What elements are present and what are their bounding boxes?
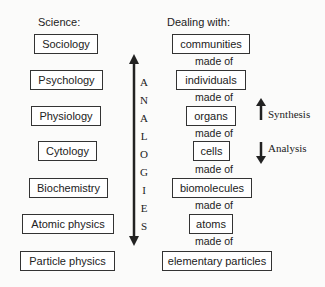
science-box-sociology: Sociology (34, 34, 98, 54)
science-box-psychology: Psychology (30, 70, 103, 90)
synthesis-label: Synthesis (268, 108, 310, 120)
analogies-letter: I (139, 184, 149, 196)
made-of-label: made of (154, 199, 274, 211)
made-of-label: made of (154, 55, 274, 67)
analogies-letter: A (139, 76, 149, 88)
analogies-letter: E (139, 202, 149, 214)
science-header: Science: (38, 16, 80, 28)
science-box-particle-physics: Particle physics (20, 251, 115, 271)
arrow-up-icon (256, 98, 266, 120)
analogies-letter: L (139, 130, 149, 142)
analogies-letter: G (139, 166, 149, 178)
level-box-biomolecules: biomolecules (172, 178, 252, 198)
level-box-cells: cells (193, 141, 230, 161)
made-of-label: made of (154, 235, 274, 247)
analogies-letter: A (139, 112, 149, 124)
science-box-cytology: Cytology (38, 141, 97, 161)
science-box-physiology: Physiology (31, 106, 101, 126)
dealing-header: Dealing with: (167, 16, 230, 28)
level-box-communities: communities (172, 34, 250, 54)
level-box-atoms: atoms (189, 214, 233, 234)
level-box-individuals: individuals (176, 70, 246, 90)
made-of-label: made of (154, 127, 274, 139)
analogies-letter: O (139, 148, 149, 160)
analogies-letter: N (139, 94, 149, 106)
science-box-biochemistry: Biochemistry (29, 178, 108, 198)
analogies-letter: S (139, 220, 149, 232)
arrow-down-icon (256, 142, 266, 164)
level-box-elementary-particles: elementary particles (162, 251, 272, 271)
level-box-organs: organs (186, 106, 236, 126)
science-box-atomic-physics: Atomic physics (22, 214, 114, 234)
made-of-label: made of (154, 163, 274, 175)
diagram: Science: Dealing with: Sociology Psychol… (0, 0, 325, 287)
analysis-label: Analysis (268, 142, 307, 154)
